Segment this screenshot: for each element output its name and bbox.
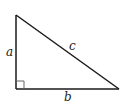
triangle-figure	[0, 0, 128, 104]
side-c-hypotenuse	[16, 15, 119, 89]
label-c: c	[69, 40, 76, 52]
right-triangle-diagram: a c b	[0, 0, 128, 104]
label-a: a	[6, 46, 13, 58]
right-angle-marker	[16, 81, 24, 89]
label-b: b	[64, 91, 72, 103]
